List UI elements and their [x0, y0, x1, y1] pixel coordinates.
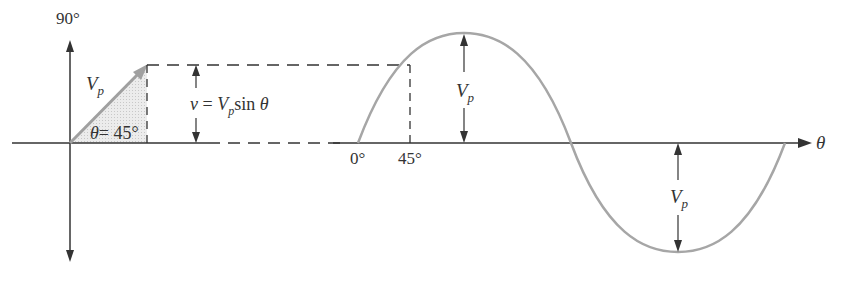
- theta-axis-label: θ: [816, 132, 825, 153]
- vertical-axis: [66, 40, 74, 262]
- trough-amplitude-label: Vp: [670, 186, 689, 211]
- phasor-magnitude-label: Vp: [86, 73, 105, 98]
- peak-amplitude-label: Vp: [456, 80, 475, 105]
- angle-label: θ= 45°: [90, 123, 139, 143]
- vertical-axis-label: 90°: [56, 9, 80, 28]
- phasor-sine-diagram: 90° Vp θ= 45° v = Vpsin θ 0° 45° θ Vp Vp: [0, 0, 843, 286]
- arrow-up-icon: [66, 40, 74, 52]
- arrow-down-icon: [66, 250, 74, 262]
- tick-0-label: 0°: [350, 149, 365, 168]
- tick-45-label: 45°: [398, 149, 422, 168]
- instantaneous-equation: v = Vpsin θ: [190, 94, 269, 118]
- theta-axis-arrow-icon: [798, 138, 812, 148]
